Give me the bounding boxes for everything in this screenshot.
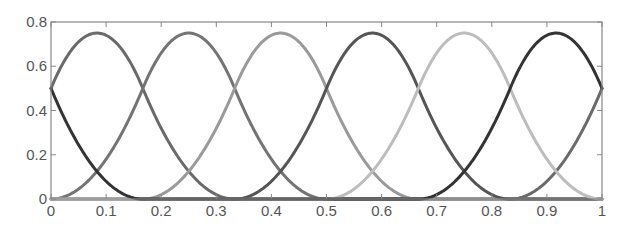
series-line-basis-4: [51, 33, 602, 199]
x-tick-label: 0.9: [536, 202, 557, 219]
x-tick-label: 0.8: [481, 202, 502, 219]
series-line-basis-1: [51, 33, 602, 199]
x-tick-label: 0.3: [206, 202, 227, 219]
x-tick-label: 0.1: [96, 202, 117, 219]
x-tick-label: 0.5: [316, 202, 337, 219]
series-line-basis-6: [51, 33, 602, 199]
y-tick-label: 0.4: [26, 102, 47, 119]
y-tick-label: 0.2: [26, 146, 47, 163]
x-tick-label: 0: [47, 202, 55, 219]
x-tick-label: 0.7: [426, 202, 447, 219]
y-tick-label: 0.6: [26, 57, 47, 74]
x-tick-label: 0.2: [151, 202, 172, 219]
x-tick-label: 0.4: [261, 202, 282, 219]
x-tick-label: 1: [598, 202, 606, 219]
curves-layer: [51, 33, 602, 199]
x-tick-label: 0.6: [371, 202, 392, 219]
series-line-basis-2: [51, 33, 602, 199]
series-line-basis-3: [51, 33, 602, 199]
chart: 00.10.20.30.40.50.60.70.80.9100.20.40.60…: [0, 0, 626, 229]
y-tick-label: 0: [39, 190, 47, 207]
series-line-basis-5: [51, 33, 602, 199]
y-tick-label: 0.8: [26, 13, 47, 30]
